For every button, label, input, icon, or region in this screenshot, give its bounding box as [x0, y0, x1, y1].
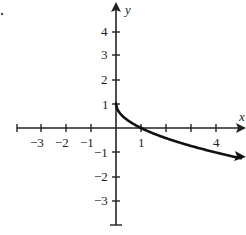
- y-tick-label: −3: [94, 193, 108, 208]
- x-axis-label: x: [238, 109, 245, 124]
- figure-marker: [1, 13, 3, 15]
- function-curve: [116, 104, 241, 159]
- x-tick-label: −3: [30, 135, 44, 150]
- y-axis-label: y: [123, 2, 131, 17]
- x-tick-label: −1: [80, 135, 94, 150]
- y-tick-label: 1: [102, 97, 109, 112]
- y-tick-label: −2: [94, 169, 108, 184]
- y-tick-label: 2: [101, 72, 108, 87]
- y-tick-label: 3: [101, 47, 108, 62]
- function-graph: y x −3 −2 −1 1 4 4 3 2 1 −1 −2 −3: [0, 0, 246, 235]
- y-tick-label: 4: [101, 24, 108, 39]
- y-tick-label: −1: [94, 145, 108, 160]
- x-tick-label: −2: [55, 135, 69, 150]
- x-tick-label: 4: [213, 135, 220, 150]
- x-tick-label: 1: [138, 135, 145, 150]
